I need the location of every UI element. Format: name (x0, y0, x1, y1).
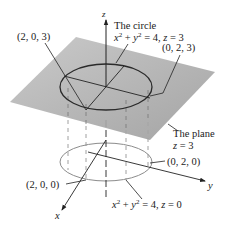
point-2-0-0-label: (2, 0, 0) (26, 179, 59, 190)
x-axis-label: x (55, 210, 60, 221)
plane-equation: z = 3 (173, 140, 194, 151)
plane-title: The plane (173, 128, 215, 139)
point-0-2-0-label: (0, 2, 0) (167, 156, 200, 167)
top-circle-title: The circle (114, 20, 156, 31)
point-0-2-3-label: (0, 2, 3) (162, 42, 195, 53)
y-axis-label: y (208, 180, 213, 191)
point-2-0-3-label: (2, 0, 3) (17, 31, 50, 42)
z-axis-label: z (102, 9, 106, 20)
bottom-circle-equation: x2 + y2 = 4, z = 0 (112, 199, 182, 210)
